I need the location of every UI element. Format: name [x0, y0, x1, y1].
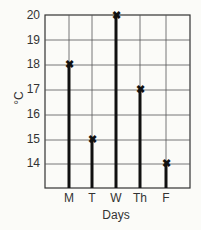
data-bars: ✖✖✖✖✖ — [65, 9, 171, 188]
x-tick-label: Th — [133, 191, 147, 205]
x-axis-label: Days — [102, 208, 129, 222]
y-tick-label: 16 — [27, 107, 41, 121]
y-tick-label: 20 — [27, 8, 41, 22]
y-tick-label: 14 — [27, 156, 41, 170]
chart: ✖✖✖✖✖ 14151617181920 MTWThF °C Days — [0, 0, 201, 230]
y-axis-label: °C — [12, 91, 26, 105]
x-marker-icon: ✖ — [112, 9, 121, 21]
y-tick-label: 19 — [27, 33, 41, 47]
y-axis-ticks: 14151617181920 — [27, 8, 41, 170]
y-tick-label: 15 — [27, 132, 41, 146]
x-tick-label: M — [64, 191, 74, 205]
x-tick-label: T — [88, 191, 96, 205]
y-tick-label: 18 — [27, 57, 41, 71]
x-marker-icon: ✖ — [65, 58, 74, 70]
y-tick-label: 17 — [27, 82, 41, 96]
x-axis-ticks: MTWThF — [64, 191, 170, 205]
x-tick-label: W — [110, 191, 122, 205]
x-marker-icon: ✖ — [162, 157, 171, 169]
x-marker-icon: ✖ — [88, 133, 97, 145]
x-marker-icon: ✖ — [136, 83, 145, 95]
x-tick-label: F — [162, 191, 169, 205]
